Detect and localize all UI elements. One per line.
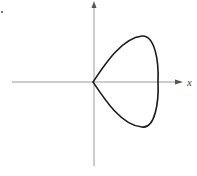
corner-mark — [1, 11, 3, 13]
y-axis-arrow-icon — [92, 1, 97, 8]
curve-figure: x — [0, 0, 197, 176]
x-axis-arrow-icon — [175, 80, 183, 85]
x-axis-label: x — [186, 76, 192, 88]
